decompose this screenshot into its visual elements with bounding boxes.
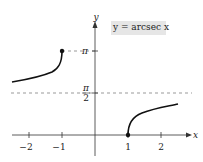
x-axis-arrow-icon [186,133,192,138]
y-axis-label: y [92,12,99,22]
endpoint-right [126,133,130,137]
y-tick-label-pi-half-num: π [82,83,90,93]
y-axis-arrow-icon [93,21,98,28]
y-tick-label-pi: π [81,46,89,56]
x-tick-label: −1 [52,142,65,152]
endpoint-left [60,49,64,53]
curve-left-branch [12,51,62,82]
legend-label: y = arcsec x [113,22,169,32]
y-tick-label-pi-half-den: 2 [83,93,89,103]
x-tick-label: 1 [125,142,131,152]
x-axis-label: x [193,130,198,140]
x-tick-label: 2 [158,142,164,152]
x-tick-label: −2 [19,142,32,152]
curve-right-branch [128,104,178,135]
chart-container: −2 −1 1 2 π π 2 y x y = arcsec x [0,0,203,162]
chart-canvas: −2 −1 1 2 π π 2 y x [0,0,203,162]
